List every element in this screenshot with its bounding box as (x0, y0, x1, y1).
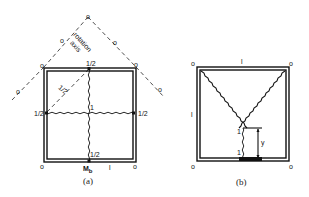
support-b-top-right: o (289, 60, 293, 67)
right-mid-label: 1/2 (138, 110, 148, 117)
support-right-axis: o (113, 39, 117, 46)
top-mid-label: 1/2 (86, 60, 96, 67)
support-b-top-left: o (191, 60, 195, 67)
slab-b-outer-edge (197, 67, 289, 161)
left-mid-label: 1/2 (34, 110, 44, 117)
support-far-right: o (158, 86, 162, 93)
span-label: l (109, 164, 111, 171)
center-label: 1 (90, 104, 94, 111)
support-top-right: o (134, 61, 138, 68)
right-diagonal-yield-line (239, 71, 285, 128)
support-left-axis: o (60, 37, 64, 44)
dimension-arrow-up (257, 129, 260, 133)
left-span-label: l (191, 111, 193, 118)
left-diagonal-yield-line (201, 71, 247, 128)
figure-a: o o o o o o o o o rotation axis 1/2 1/2 … (12, 13, 164, 186)
support-b-bottom-right: o (289, 163, 293, 170)
bottom-mid-label: 1/2 (90, 151, 100, 158)
support-far-left: o (16, 88, 20, 95)
lower-one-label: 1 (237, 149, 241, 156)
node-top (88, 67, 91, 70)
bottom-bar (239, 157, 262, 161)
vertical-yield-line (88, 69, 90, 161)
figure-b: o o o o l l 1 1 y (b) (191, 58, 293, 187)
node-right (132, 112, 135, 115)
slab-inner-edge (47, 71, 133, 159)
diagram-canvas: o o o o o o o o o rotation axis 1/2 1/2 … (0, 0, 309, 197)
slab-outer-edge (44, 68, 136, 162)
node-bottom (88, 160, 91, 163)
rotation-axis-left-lower (12, 67, 44, 100)
top-span-label: l (241, 58, 243, 65)
support-apex: o (86, 13, 90, 20)
upper-one-label: 1 (237, 128, 241, 135)
caption-b: (b) (236, 177, 247, 187)
support-bottom-right: o (133, 163, 137, 170)
support-b-bottom-left: o (191, 163, 195, 170)
caption-a: (a) (83, 176, 93, 186)
vertical-yield-line-b (242, 128, 244, 160)
diagonal-label: 1/2 (57, 84, 69, 96)
moment-label: Mb (83, 165, 93, 174)
dimension-y-label: y (261, 139, 265, 147)
support-bottom-left: o (40, 163, 44, 170)
horizontal-yield-line (46, 112, 134, 114)
node-left (45, 112, 48, 115)
